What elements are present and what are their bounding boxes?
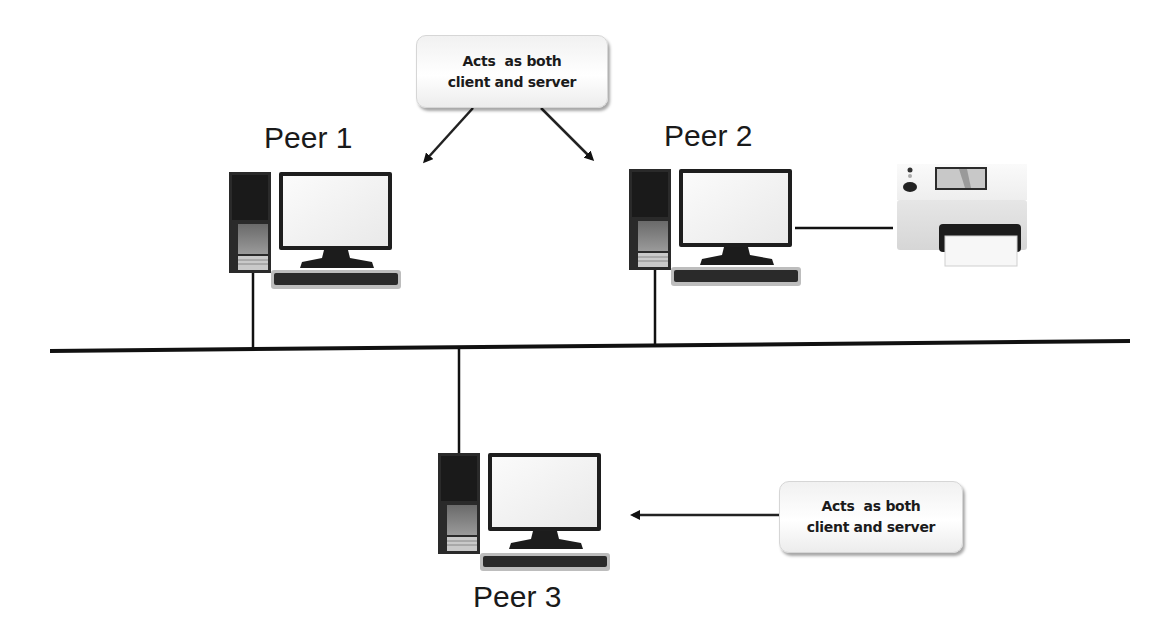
peer1-label: Peer 1 <box>264 121 352 155</box>
peer2-computer-icon <box>628 167 804 289</box>
peer3-label: Peer 3 <box>473 580 561 614</box>
peer3-computer-icon <box>437 451 613 573</box>
printer-icon <box>895 162 1031 272</box>
callout-bottom-line2: client and server <box>807 517 935 538</box>
arrow-to-peer1 <box>425 108 473 161</box>
callout-bottom-line1: Acts as both <box>822 496 921 517</box>
callout-top-line2: client and server <box>448 72 576 93</box>
arrow-to-peer2 <box>541 108 592 159</box>
network-bus <box>50 341 1130 351</box>
callout-bottom: Acts as both client and server <box>779 481 963 553</box>
peer2-label: Peer 2 <box>664 119 752 153</box>
peer1-computer-icon <box>228 170 404 292</box>
callout-top-line1: Acts as both <box>463 51 562 72</box>
callout-top: Acts as both client and server <box>416 35 608 108</box>
